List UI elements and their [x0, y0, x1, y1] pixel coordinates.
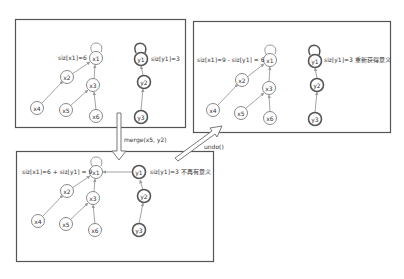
- node-x1: x1: [90, 52, 103, 65]
- svg-text:y2: y2: [313, 82, 321, 90]
- svg-text:x6: x6: [92, 113, 100, 120]
- svg-text:x4: x4: [34, 218, 42, 225]
- svg-text:x1: x1: [92, 55, 100, 62]
- edge-x5-x3: [70, 90, 88, 106]
- size-label-y1: siz[y1]=3 重新获得意义: [324, 56, 391, 64]
- svg-text:y2: y2: [140, 79, 148, 87]
- panel-after-merge: x1 x2 x3 x4 x5 x6 y1 y2 y3 siz[x1]=6 + s…: [17, 152, 214, 262]
- svg-text:x1: x1: [92, 169, 100, 176]
- self-loop-x1: [265, 45, 276, 54]
- node-y1: y1: [133, 166, 146, 179]
- svg-text:x5: x5: [237, 110, 245, 117]
- svg-text:x4: x4: [33, 105, 41, 112]
- svg-text:y1: y1: [137, 56, 145, 64]
- size-label-x1: siz[x1]=9 - siz[y1] = 6: [197, 56, 265, 64]
- node-x6: x6: [89, 224, 102, 237]
- edge-y2-y1: [140, 180, 143, 190]
- self-loop-y1: [135, 43, 146, 53]
- svg-text:x2: x2: [238, 77, 246, 84]
- edge-x4-x2: [41, 81, 63, 104]
- size-label-x1: siz[x1]=6 + siz[y1] = 9: [22, 168, 93, 176]
- svg-text:y1: y1: [311, 58, 319, 66]
- node-x3: x3: [87, 192, 100, 205]
- size-label-x1: siz[x1]=6: [58, 54, 87, 61]
- node-y1: y1: [135, 53, 148, 66]
- svg-text:x5: x5: [62, 221, 70, 228]
- node-x2: x2: [61, 71, 74, 84]
- svg-text:x3: x3: [265, 85, 273, 92]
- edge-x2-x1: [247, 64, 264, 77]
- self-loop-x1: [91, 43, 102, 52]
- svg-text:x3: x3: [89, 195, 97, 202]
- node-y1: y1: [309, 55, 322, 68]
- node-x5: x5: [60, 104, 73, 117]
- edge-y2-y1: [141, 66, 143, 75]
- node-x6: x6: [264, 112, 277, 125]
- edge-x2-x1: [72, 176, 90, 188]
- merge-label: merge(x5, y2): [124, 136, 167, 144]
- svg-text:x4: x4: [209, 107, 217, 114]
- node-x1: x1: [264, 54, 277, 67]
- edge-x6-x3: [94, 92, 96, 110]
- union-find-diagram: x1 x2 x3 x4 x5 x6 y1 y2 y3 siz[x1]=6 siz…: [0, 0, 404, 279]
- node-y2: y2: [138, 190, 151, 203]
- edge-x5-x3: [70, 203, 88, 220]
- node-x4: x4: [31, 102, 44, 115]
- undo-label: undo(): [204, 143, 224, 150]
- size-label-y1: siz[y1]=3: [151, 55, 180, 63]
- size-label-y1: siz[y1]=3 不再有意义: [150, 168, 211, 176]
- edge-x3-x1: [94, 179, 95, 192]
- self-loop-y1: [309, 45, 320, 55]
- node-y3: y3: [309, 113, 322, 126]
- svg-text:y3: y3: [137, 114, 145, 122]
- panel-frame: [194, 22, 391, 133]
- edge-x6-x3: [93, 205, 95, 224]
- svg-text:x2: x2: [63, 74, 71, 81]
- svg-text:y3: y3: [135, 227, 143, 235]
- svg-text:x2: x2: [63, 188, 71, 195]
- self-loop-x1: [91, 157, 102, 166]
- svg-text:x3: x3: [89, 82, 97, 89]
- svg-text:y3: y3: [311, 116, 319, 124]
- edge-y3-y2: [139, 203, 143, 224]
- node-x2: x2: [236, 74, 249, 87]
- edge-x2-x1: [72, 62, 90, 74]
- edge-x5-x3: [245, 93, 264, 109]
- svg-text:x6: x6: [91, 227, 99, 234]
- node-x6: x6: [90, 110, 103, 123]
- node-y3: y3: [135, 111, 148, 124]
- node-x4: x4: [32, 215, 45, 228]
- edge-x3-x1: [94, 65, 95, 79]
- edge-x4-x2: [42, 195, 63, 217]
- edge-x3-x1: [269, 67, 270, 82]
- edge-y2-y1: [315, 68, 317, 78]
- svg-text:x6: x6: [266, 115, 274, 122]
- svg-text:x1: x1: [266, 57, 274, 64]
- node-x5: x5: [235, 107, 248, 120]
- node-x2: x2: [61, 185, 74, 198]
- node-y3: y3: [133, 224, 146, 237]
- node-x4: x4: [207, 104, 220, 117]
- edge-x6-x3: [269, 95, 270, 112]
- edge-y3-y2: [141, 89, 143, 110]
- edge-x4-x2: [217, 84, 238, 106]
- panel-before: x1 x2 x3 x4 x5 x6 y1 y2 y3 siz[x1]=6 siz…: [16, 20, 186, 128]
- svg-text:y1: y1: [135, 169, 143, 177]
- node-x3: x3: [87, 79, 100, 92]
- node-x3: x3: [263, 82, 276, 95]
- panel-after-undo: x1 x2 x3 x4 x5 x6 y1 y2 y3 siz[x1]=9 - s…: [194, 22, 391, 133]
- node-y2: y2: [138, 76, 151, 89]
- edge-y3-y2: [315, 92, 317, 112]
- node-y2: y2: [311, 79, 324, 92]
- svg-text:x5: x5: [62, 107, 70, 114]
- svg-text:y2: y2: [140, 193, 148, 201]
- node-x5: x5: [60, 218, 73, 231]
- undo-arrow: undo(): [175, 126, 224, 161]
